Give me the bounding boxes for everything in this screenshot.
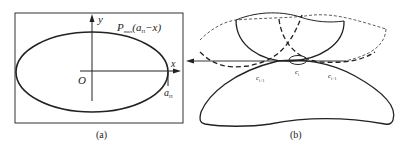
upper-solid-cup (236, 20, 344, 61)
force-arrow-icon (186, 59, 194, 64)
a-h-label: aH (164, 87, 173, 99)
dashed-arc-left (200, 15, 302, 67)
panel-b-caption: (b) (290, 129, 302, 141)
figure-canvas: y x O Pmax(aH−x) aH (a) ci+1 ci ci−1 (b) (0, 0, 403, 148)
contact-label-i-minus-1: ci−1 (328, 72, 336, 81)
panel-a-caption: (a) (96, 129, 107, 141)
y-axis-label: y (97, 13, 103, 25)
y-axis-arrow-icon (90, 14, 95, 22)
x-axis-arrow-icon (173, 69, 181, 74)
contact-label-i: ci (295, 68, 300, 77)
dashed-outline-right (345, 29, 386, 61)
x-axis-label: x (170, 58, 176, 69)
contact-label-i-plus-1: ci+1 (256, 74, 264, 83)
curve-label: Pmax(aH−x) (116, 21, 161, 34)
origin-label: O (78, 74, 86, 86)
